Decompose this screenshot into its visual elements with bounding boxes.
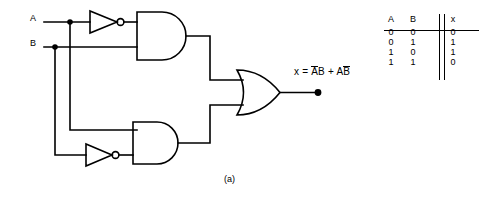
equation-prefix: x = (294, 66, 311, 77)
figure-caption: (a) (224, 174, 235, 184)
input-label-b: B (30, 38, 36, 48)
figure-container: A B x = AB + AB (a) A B x 0 0 (0, 0, 495, 201)
cell-gap (424, 37, 440, 47)
table-vertical-separator-left (439, 14, 440, 80)
table-header-rule (384, 30, 479, 31)
and-gate-bottom-body (133, 122, 178, 164)
table-header-a: A (380, 14, 402, 27)
junction-dot-a (67, 19, 73, 25)
output-terminal-dot (315, 89, 322, 96)
or-gate-body (237, 70, 280, 115)
table-header-row: A B x (380, 14, 466, 27)
cell-b: 0 (402, 27, 424, 37)
inverter-a-body (90, 11, 117, 33)
wire-and-bottom-output (178, 105, 243, 143)
truth-table: A B x 0 0 0 0 1 1 (380, 14, 485, 80)
equation-b: B (318, 66, 325, 77)
cell-a: 0 (380, 27, 402, 37)
cell-gap (424, 47, 440, 57)
output-equation: x = AB + AB (294, 66, 350, 78)
table-row: 0 0 0 (380, 27, 466, 37)
junction-dot-b (52, 44, 58, 50)
cell-a: 1 (380, 57, 402, 67)
cell-gap (424, 27, 440, 37)
cell-gap (424, 57, 440, 67)
table-row: 1 1 0 (380, 57, 466, 67)
equation-plus: + (325, 66, 336, 77)
cell-b: 1 (402, 57, 424, 67)
table-row: 1 0 1 (380, 47, 466, 57)
table-row: 0 1 1 (380, 37, 466, 47)
equation-not-b: B (343, 66, 350, 78)
table-header-b: B (402, 14, 424, 27)
equation-a: A (336, 66, 343, 77)
inverter-b-body (86, 144, 112, 166)
wire-and-top-output (186, 36, 243, 80)
input-label-a: A (30, 13, 36, 23)
cell-a: 0 (380, 37, 402, 47)
and-gate-top-body (137, 12, 186, 60)
cell-b: 1 (402, 37, 424, 47)
cell-b: 0 (402, 47, 424, 57)
wire-a-branch-down (70, 22, 137, 130)
table-vertical-separator-right (444, 14, 445, 80)
cell-a: 1 (380, 47, 402, 57)
table-header-gap (424, 14, 440, 27)
